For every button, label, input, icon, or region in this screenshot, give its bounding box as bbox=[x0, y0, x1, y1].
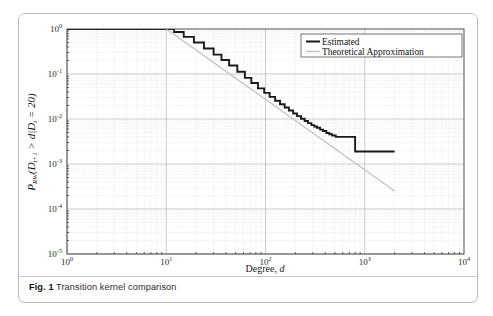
x-axis-title: Degree, d bbox=[246, 263, 286, 274]
svg-text:Degree, d: Degree, d bbox=[246, 263, 286, 274]
ylabel-d2: D bbox=[25, 123, 37, 132]
ylabel-d1: D bbox=[25, 162, 37, 171]
x-axis-title-text: Degree, bbox=[246, 263, 280, 274]
figure-caption: Fig. 1 Transition kernel comparison bbox=[29, 282, 469, 292]
chart-plot-region: 100101102103104 10010-110-210-310-410-5 … bbox=[19, 14, 478, 276]
legend-label-estimated: Estimated bbox=[322, 37, 360, 47]
figure-caption-text: Transition kernel comparison bbox=[56, 282, 176, 292]
ylabel-eq: = 20) bbox=[25, 93, 38, 121]
figure-card: 100101102103104 10010-110-210-310-410-5 … bbox=[18, 13, 478, 303]
legend-label-theoretical: Theoretical Approximation bbox=[322, 47, 424, 57]
chart-svg: 100101102103104 10010-110-210-310-410-5 … bbox=[19, 14, 478, 276]
caption-divider bbox=[19, 276, 478, 277]
ylabel-d1-sub: t+1 bbox=[31, 152, 39, 162]
figure-number: Fig. 1 bbox=[29, 282, 54, 292]
chart-legend[interactable]: Estimated Theoretical Approximation bbox=[301, 34, 462, 57]
ylabel-gt: > bbox=[25, 139, 37, 152]
